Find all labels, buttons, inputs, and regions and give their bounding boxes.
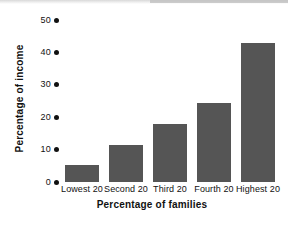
x-axis-tick-labels: Lowest 20Second 20Third 20Fourth 20Highe… [44,183,288,197]
y-axis-title: Percentage of income [14,34,25,164]
bar [197,103,231,182]
y-axis-tick-label: 50 [41,16,51,25]
bar-chart: 01020304050 Lowest 20Second 20Third 20Fo… [0,0,288,228]
x-axis-title: Percentage of families [0,199,288,210]
y-axis-tick-dot-icon [54,147,59,152]
y-axis-tick-dot-icon [54,82,59,87]
bar-series [60,20,280,182]
bar [109,145,143,182]
y-axis-tick-dot-icon [54,18,59,23]
y-axis-tick-label: 30 [41,80,51,89]
plot-area: 01020304050 [60,20,280,182]
scan-edge-artifact-dark [150,0,288,3]
y-axis-tick-label: 20 [41,113,51,122]
y-axis-tick-label: 40 [41,48,51,57]
y-axis-tick-dot-icon [54,50,59,55]
y-axis-tick-dot-icon [54,115,59,120]
bar [241,43,275,182]
bar [153,124,187,182]
y-axis-tick-label: 10 [41,145,51,154]
bar [65,165,99,182]
x-axis-tick-label: Highest 20 [232,183,284,196]
